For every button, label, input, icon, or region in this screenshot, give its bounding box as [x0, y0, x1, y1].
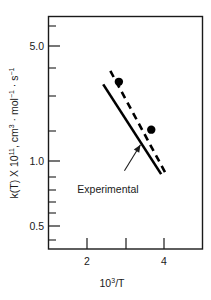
y-axis-title-p7: · s	[8, 75, 20, 90]
annotation-arrow-icon	[134, 145, 141, 153]
svg-text:103/T: 103/T	[100, 277, 126, 289]
x-axis-title-base: 10	[100, 277, 112, 289]
y-tick-label-0.5: 0.5	[29, 220, 44, 232]
arrhenius-plot: 5.0 1.0 0.5 2 4 103/T k(T) X 1011, cm3 ·…	[0, 0, 211, 300]
y-axis-title-p8: −1	[8, 67, 15, 75]
y-axis-title: k(T) X 1011, cm3 · mol−1 · s−1	[8, 67, 20, 198]
annotation-label-experimental: Experimental	[77, 183, 138, 195]
chart-figure: 5.0 1.0 0.5 2 4 103/T k(T) X 1011, cm3 ·…	[0, 0, 211, 300]
x-axis-ticks	[87, 238, 164, 249]
plot-frame	[49, 17, 203, 250]
x-axis-title: 103/T	[100, 277, 126, 289]
x-tick-label-4: 4	[161, 255, 167, 267]
series-line-calculated	[110, 71, 166, 174]
annotation-leader	[124, 145, 140, 171]
data-point-marker	[147, 125, 155, 133]
y-axis-title-p5: · mol	[8, 98, 20, 124]
y-tick-label-5.0: 5.0	[29, 40, 44, 52]
x-axis-title-tail: /T	[115, 277, 125, 289]
y-axis-title-p3: , cm	[8, 128, 20, 148]
y-tick-label-1.0: 1.0	[29, 155, 44, 167]
data-point-marker	[115, 78, 123, 86]
x-tick-label-2: 2	[84, 255, 90, 267]
y-axis-title-p2: 11	[8, 148, 15, 155]
y-axis-title-p1: k(T) X 10	[8, 155, 20, 198]
y-axis-ticks	[49, 26, 61, 240]
svg-text:k(T) X 1011, cm3 · mol−1 · s−1: k(T) X 1011, cm3 · mol−1 · s−1	[8, 67, 20, 198]
y-axis-title-p6: −1	[8, 90, 15, 98]
